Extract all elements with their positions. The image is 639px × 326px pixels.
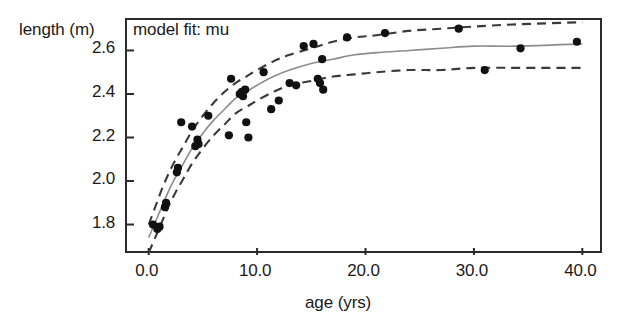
axis-tick-marks: [127, 50, 582, 255]
scatter-point: [481, 66, 489, 74]
scatter-point: [292, 81, 300, 89]
scatter-point: [318, 55, 326, 63]
scatter-point: [381, 29, 389, 37]
x-tick-label: 40.0: [545, 262, 615, 279]
scatter-point: [225, 131, 233, 139]
upper-confidence-band-line: [149, 22, 583, 224]
x-tick-label: 10.0: [220, 262, 290, 279]
scatter-point: [275, 96, 283, 104]
scatter-point: [516, 44, 524, 52]
scatter-point: [188, 123, 196, 131]
scatter-point: [573, 38, 581, 46]
scatter-point: [155, 223, 163, 231]
scatter-point: [267, 105, 275, 113]
plot-area: [125, 18, 602, 253]
x-tick-label: 0.0: [112, 262, 182, 279]
x-tick-label: 20.0: [329, 262, 399, 279]
panel-strip-title: model fit: mu: [133, 20, 229, 40]
scatter-point: [241, 86, 249, 94]
scatter-point: [260, 68, 268, 76]
plot-svg: [127, 20, 604, 255]
scatter-point: [319, 86, 327, 94]
scatter-point: [227, 75, 235, 83]
scatter-point: [242, 118, 250, 126]
lower-confidence-band-line: [149, 68, 583, 253]
figure-container: length (m) 1.82.02.22.42.6 0.010.020.030…: [0, 0, 639, 326]
scatter-point: [455, 25, 463, 33]
scatter-points: [149, 25, 581, 233]
x-tick-label: 30.0: [437, 262, 507, 279]
scatter-point: [244, 133, 252, 141]
scatter-point: [309, 40, 317, 48]
scatter-point: [194, 140, 202, 148]
scatter-point: [204, 112, 212, 120]
scatter-point: [174, 164, 182, 172]
scatter-point: [177, 118, 185, 126]
scatter-point: [343, 33, 351, 41]
scatter-point: [300, 42, 308, 50]
x-axis-label: age (yrs): [305, 293, 371, 313]
scatter-point: [162, 199, 170, 207]
